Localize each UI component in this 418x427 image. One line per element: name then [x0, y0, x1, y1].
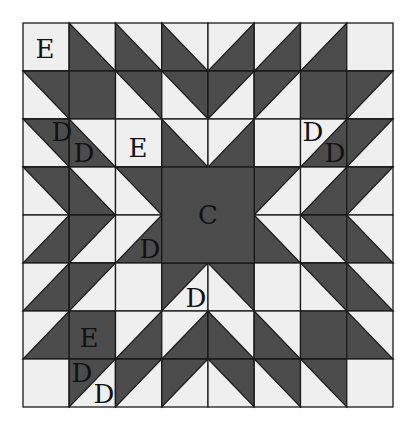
quilt-cell — [162, 23, 208, 71]
piece-label-d: D — [52, 117, 73, 147]
quilt-cell — [254, 263, 300, 311]
quilt-cell — [254, 311, 300, 359]
quilt-cell — [254, 23, 300, 71]
quilt-cell — [116, 71, 162, 119]
quilt-cell — [208, 311, 254, 359]
piece-label-d: D — [303, 117, 324, 147]
quilt-cell — [208, 359, 254, 407]
quilt-cell — [69, 23, 115, 71]
piece-label-e: E — [36, 34, 55, 64]
piece-label-c: C — [198, 200, 218, 230]
piece-label-e: E — [129, 133, 148, 163]
quilt-cell — [116, 263, 162, 311]
quilt-cell — [347, 215, 393, 263]
quilt-cell — [162, 359, 208, 407]
quilt-cell — [301, 263, 347, 311]
quilt-cell — [301, 359, 347, 407]
piece-label-d: D — [325, 138, 346, 168]
quilt-cell — [208, 263, 254, 311]
quilt-cell — [23, 167, 69, 215]
piece-label-d: D — [186, 283, 207, 313]
quilt-cell — [301, 167, 347, 215]
quilt-cell — [23, 263, 69, 311]
quilt-cell — [208, 23, 254, 71]
quilt-cell — [69, 71, 115, 119]
quilt-cell — [301, 215, 347, 263]
quilt-cell — [116, 23, 162, 71]
quilt-cell — [301, 311, 347, 359]
quilt-cell — [254, 71, 300, 119]
quilt-cell — [347, 119, 393, 167]
quilt-cell — [23, 71, 69, 119]
quilt-cell — [347, 23, 393, 71]
quilt-cell — [347, 263, 393, 311]
quilt-diagram: EDDEDDCDDEDD — [0, 0, 418, 427]
quilt-cell — [116, 167, 162, 215]
quilt-cell — [254, 119, 300, 167]
quilt-cell — [301, 23, 347, 71]
piece-label-d: D — [140, 234, 161, 264]
quilt-cell — [208, 119, 254, 167]
quilt-cell — [162, 311, 208, 359]
quilt-cell — [69, 215, 115, 263]
quilt-cell — [116, 359, 162, 407]
quilt-cell — [69, 167, 115, 215]
quilt-cell — [254, 359, 300, 407]
quilt-cell — [208, 71, 254, 119]
piece-label-e: E — [80, 323, 99, 353]
piece-label-d: D — [72, 358, 93, 388]
quilt-cell — [162, 119, 208, 167]
quilt-cell — [23, 215, 69, 263]
quilt-cell — [347, 311, 393, 359]
quilt-cell — [69, 263, 115, 311]
quilt-cell — [347, 167, 393, 215]
piece-label-d: D — [74, 138, 95, 168]
quilt-cell — [347, 359, 393, 407]
quilt-cell — [116, 311, 162, 359]
quilt-cell — [254, 215, 300, 263]
quilt-cell — [162, 71, 208, 119]
quilt-cell — [23, 359, 69, 407]
quilt-cell — [23, 311, 69, 359]
quilt-cell — [254, 167, 300, 215]
quilt-cell — [301, 71, 347, 119]
quilt-cell — [347, 71, 393, 119]
piece-label-d: D — [94, 379, 115, 409]
